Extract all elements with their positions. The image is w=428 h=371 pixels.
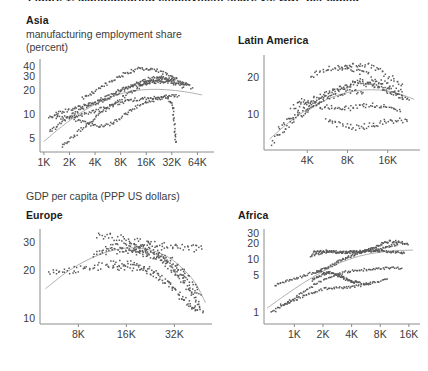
x-tick-label: 1K <box>37 156 50 168</box>
plot-europe: 1020308K16K32K <box>0 226 226 350</box>
y-axis-note: manufacturing employment share (percent) <box>26 28 182 53</box>
x-tick-label: 4K <box>345 328 358 340</box>
x-tick-label: 1K <box>288 328 301 340</box>
x-tick-label: 8K <box>374 328 387 340</box>
y-tick-label: 30 <box>247 227 259 239</box>
y-tick-label: 10 <box>23 108 35 120</box>
panel-title-africa: Africa <box>238 209 268 221</box>
y-tick-label: 10 <box>247 108 259 120</box>
x-tick-label: 8K <box>114 156 127 168</box>
x-tick-label: 64K <box>188 156 207 168</box>
panel-latin-america: Latin America <box>238 34 308 46</box>
x-tick-label: 2K <box>317 328 330 340</box>
y-tick-label: 30 <box>23 236 35 248</box>
scatter-layer <box>271 63 410 146</box>
y-tick-label: 20 <box>23 84 35 96</box>
trend-line <box>44 89 202 141</box>
panel-africa: Africa <box>238 209 268 221</box>
plot-africa: 151020301K2K4K8K16K <box>226 226 428 350</box>
scatter-layer <box>270 240 408 313</box>
panel-asia: Asia manufacturing employment share (per… <box>26 14 182 53</box>
scatter-layer <box>48 233 204 314</box>
x-tick-label: 32K <box>165 328 184 340</box>
scatter-layer <box>48 67 193 148</box>
y-tick-label: 5 <box>29 132 35 144</box>
y-tick-label: 40 <box>23 60 35 72</box>
panel-title-latin-america: Latin America <box>238 34 308 46</box>
x-tick-label: 4K <box>301 154 314 166</box>
x-tick-label: 2K <box>63 156 76 168</box>
x-tick-label: 8K <box>341 154 354 166</box>
x-tick-label: 16K <box>378 154 397 166</box>
x-tick-label: 4K <box>89 156 102 168</box>
plot-asia: 5102030401K2K4K8K16K32K64K <box>0 56 226 176</box>
y-tick-label: 20 <box>247 71 259 83</box>
figure-root: Figure 1. Manufacturing employment share… <box>0 0 428 371</box>
x-axis-label-asia: GDP per capita (PPP US dollars) <box>26 190 180 202</box>
panel-title-asia: Asia <box>26 14 182 26</box>
x-tick-label: 16K <box>137 156 156 168</box>
trend-line <box>270 90 414 139</box>
y-tick-label: 10 <box>247 253 259 265</box>
figure-clipped-header: Figure 1. Manufacturing employment share… <box>28 0 359 1</box>
x-tick-label: 8K <box>72 328 85 340</box>
y-tick-label: 5 <box>253 269 259 281</box>
x-tick-label: 32K <box>162 156 181 168</box>
x-tick-label: 16K <box>400 328 419 340</box>
plot-latin-america: 10204K8K16K <box>226 52 428 176</box>
x-tick-label: 16K <box>117 328 136 340</box>
panel-europe: Europe <box>26 209 63 221</box>
panel-title-europe: Europe <box>26 209 63 221</box>
y-tick-label: 10 <box>23 312 35 324</box>
y-tick-label: 20 <box>23 264 35 276</box>
y-tick-label: 1 <box>253 306 259 318</box>
